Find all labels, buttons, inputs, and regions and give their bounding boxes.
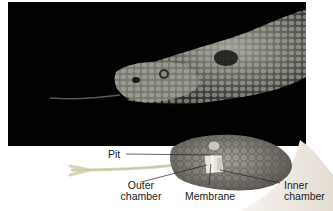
figure: Pit Outer chamber Membrane Inner chamber	[0, 0, 333, 211]
label-outer-chamber: Outer chamber	[120, 180, 162, 202]
label-inner-chamber: Inner chamber	[284, 180, 325, 202]
label-outer-chamber-line2: chamber	[120, 191, 162, 202]
label-inner-chamber-line2: chamber	[284, 191, 325, 202]
label-membrane: Membrane	[185, 191, 235, 202]
label-pit: Pit	[108, 149, 120, 160]
